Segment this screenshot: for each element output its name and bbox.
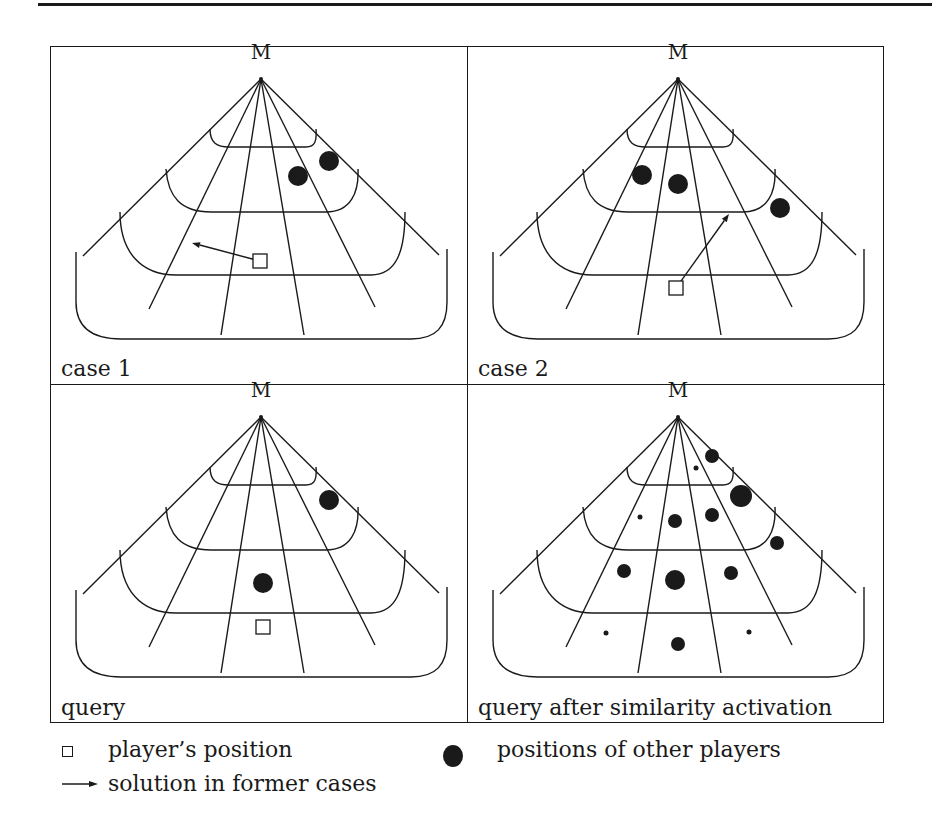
player-dot [747,630,752,635]
panel-case-2: M case 2 [468,47,885,385]
page-top-rule [38,3,932,6]
player-dot [319,490,339,510]
player-dot [632,165,652,185]
player-dot [665,570,685,590]
solution-arrow [200,245,253,259]
player-dot [705,508,719,522]
player-dot [671,637,685,651]
field-diagram [468,385,885,723]
panel-label: case 1 [61,356,132,382]
field-diagram [51,47,468,385]
apex-label-m: M [251,41,271,63]
soccer-case-figure: M case 1 M case 2 M query M query after … [50,46,884,723]
dot-icon [443,745,463,767]
player-dot [730,485,752,507]
field-diagram [468,47,885,385]
player-dot [288,166,308,186]
field-diagram [51,385,468,723]
player-dot [694,466,699,471]
legend-player-position: player’s position [108,738,292,762]
apex-label-m: M [668,379,688,401]
player-dot [724,566,738,580]
player-dot [705,449,719,463]
panel-query-after-activation: M query after similarity activation [468,385,885,723]
player-dot [668,174,688,194]
player-dot [770,536,784,550]
player-dot [638,515,643,520]
panel-label: case 2 [478,356,549,382]
solution-arrow [680,221,724,283]
player-dot [770,198,790,218]
player-position-square [669,281,683,295]
player-position-square [253,254,267,268]
arrow-icon [60,779,100,789]
player-dot [617,564,631,578]
apex-label-m: M [251,379,271,401]
square-icon [62,746,73,757]
player-dot [253,573,273,593]
player-position-square [256,620,270,634]
panel-label: query [61,695,125,721]
panel-case-1: M case 1 [51,47,468,385]
apex-label-m: M [668,41,688,63]
player-dot [668,514,682,528]
legend-solution: solution in former cases [108,772,377,796]
panel-label: query after similarity activation [478,695,832,721]
player-dot [604,631,609,636]
player-dot [319,151,339,171]
panel-query: M query [51,385,468,723]
legend-other-players: positions of other players [497,738,781,762]
